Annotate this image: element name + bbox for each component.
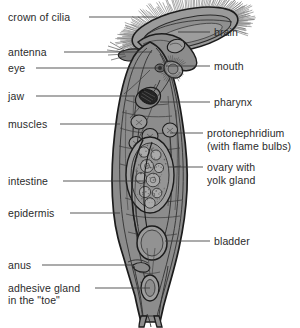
label-crown-of-cilia: crown of cilia — [8, 11, 70, 24]
label-epidermis: epidermis — [8, 207, 54, 220]
label-adhesive-gland: adhesive gland — [8, 282, 80, 295]
label-muscles: muscles — [8, 118, 47, 131]
diagram-canvas: crown of ciliaantennaeyejawmusclesintest… — [0, 0, 300, 328]
label-antenna: antenna — [8, 46, 47, 59]
label-in-the-toe: in the "toe" — [8, 294, 60, 307]
label-yolk-gland: yolk gland — [207, 174, 255, 187]
label-brain: brain — [214, 26, 238, 39]
bladder — [137, 226, 167, 260]
label-with-flame-bulbs: (with flame bulbs) — [207, 140, 291, 153]
label-mouth: mouth — [214, 60, 244, 73]
label-intestine: intestine — [8, 175, 48, 188]
label-pharynx: pharynx — [214, 96, 252, 109]
label-eye: eye — [8, 62, 25, 75]
label-ovary-with: ovary with — [207, 161, 255, 174]
label-bladder: bladder — [214, 235, 250, 248]
label-protonephridium: protonephridium — [207, 127, 284, 140]
label-jaw: jaw — [8, 90, 24, 103]
label-anus: anus — [8, 259, 31, 272]
